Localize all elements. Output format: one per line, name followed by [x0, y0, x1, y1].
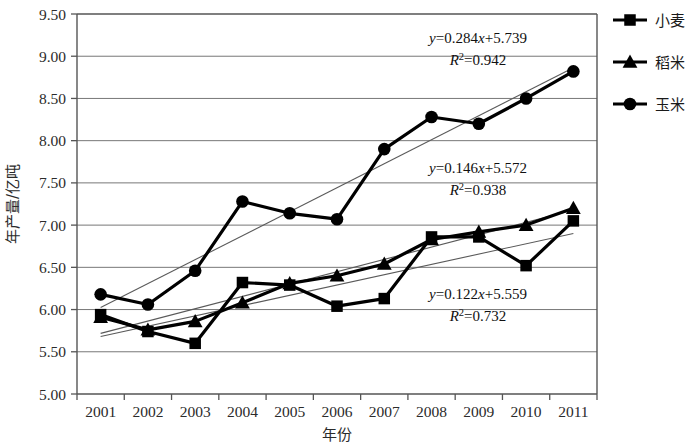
y-tick-label: 6.50 — [39, 259, 66, 276]
x-tick-label: 2010 — [511, 403, 542, 420]
r2-line-rice: R2=0.938 — [449, 181, 507, 199]
data-point-corn — [473, 117, 486, 130]
data-point-corn — [283, 207, 296, 220]
x-axis-title: 年份 — [322, 426, 352, 443]
equation-line-corn: y=0.284x+5.739 — [427, 30, 527, 46]
x-tick-label: 2001 — [85, 403, 116, 420]
x-axis-ticks: 2001200220032004200520062007200820092010… — [77, 394, 597, 420]
data-point-corn — [236, 195, 249, 208]
legend-marker-corn — [624, 98, 637, 111]
legend: 小麦稻米玉米 — [613, 12, 685, 114]
legend-label-wheat: 小麦 — [655, 12, 685, 30]
y-tick-label: 9.50 — [39, 6, 66, 23]
x-axis-title-text: 年份 — [322, 426, 352, 443]
data-point-wheat — [379, 293, 391, 305]
x-tick-label: 2009 — [463, 403, 494, 420]
data-point-rice — [566, 201, 581, 214]
x-tick-label: 2003 — [180, 403, 211, 420]
data-point-corn — [142, 298, 155, 311]
y-tick-label: 5.00 — [39, 386, 66, 403]
r2-line-wheat: R2=0.732 — [449, 307, 507, 325]
x-tick-label: 2008 — [416, 403, 447, 420]
y-axis-ticks: 9.509.008.508.007.507.006.506.005.505.00 — [39, 6, 77, 403]
equation-line-wheat: y=0.122x+5.559 — [427, 286, 527, 302]
x-tick-label: 2007 — [369, 403, 400, 420]
data-point-corn — [567, 65, 580, 78]
legend-marker-wheat — [624, 14, 636, 26]
y-tick-label: 6.00 — [39, 301, 66, 318]
data-point-wheat — [568, 215, 580, 227]
x-tick-label: 2006 — [322, 403, 353, 420]
line-chart-svg: 9.509.008.508.007.507.006.506.005.505.00… — [0, 0, 693, 443]
y-tick-label: 5.50 — [39, 343, 66, 360]
data-point-wheat — [237, 277, 249, 289]
y-tick-label: 8.00 — [39, 132, 66, 149]
y-axis-title-text: 年产量/亿吨 — [4, 164, 22, 244]
data-point-wheat — [331, 300, 343, 312]
legend-label-corn: 玉米 — [655, 96, 685, 114]
legend-label-rice: 稻米 — [655, 54, 685, 72]
y-axis-title: 年产量/亿吨 — [4, 164, 22, 244]
data-point-corn — [189, 264, 202, 277]
plot-frame — [77, 14, 597, 394]
r2-line-corn: R2=0.942 — [449, 51, 507, 69]
x-tick-label: 2005 — [274, 403, 305, 420]
x-tick-label: 2004 — [227, 403, 258, 420]
data-point-corn — [94, 288, 107, 301]
data-point-corn — [331, 213, 344, 226]
data-point-wheat — [520, 260, 532, 272]
x-tick-label: 2002 — [132, 403, 163, 420]
data-point-corn — [520, 92, 533, 105]
y-tick-label: 7.00 — [39, 217, 66, 234]
x-tick-label: 2011 — [558, 403, 588, 420]
equation-line-rice: y=0.146x+5.572 — [427, 160, 527, 176]
chart-container: 9.509.008.508.007.507.006.506.005.505.00… — [0, 0, 693, 443]
data-point-corn — [425, 111, 438, 124]
data-point-corn — [378, 143, 391, 156]
y-tick-label: 8.50 — [39, 90, 66, 107]
data-point-wheat — [189, 338, 201, 350]
y-tick-label: 7.50 — [39, 174, 66, 191]
annotations-group: y=0.284x+5.739R2=0.942y=0.146x+5.572R2=0… — [427, 30, 527, 324]
y-tick-label: 9.00 — [39, 48, 66, 65]
